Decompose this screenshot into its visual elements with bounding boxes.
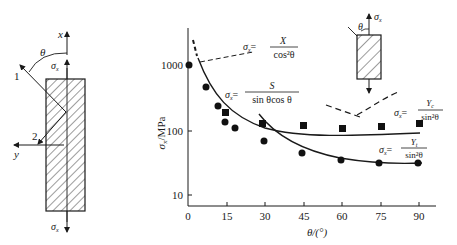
inset-stress-label: σx <box>374 11 382 23</box>
curve-yc-dashed-left <box>326 105 360 117</box>
data-point-circle <box>186 62 193 69</box>
x-tick-90: 90 <box>414 210 426 222</box>
data-point-circle <box>415 160 422 167</box>
x-tick-0: 0 <box>185 210 191 222</box>
svg-text:sin θcos θ: sin θcos θ <box>252 94 292 105</box>
curve-x-leader <box>200 52 253 62</box>
data-point-circle <box>222 119 229 126</box>
x-tick-45: 45 <box>299 210 311 222</box>
data-point-square <box>339 125 346 132</box>
formula-s-sincos: σx= S sin θcos θ <box>225 80 299 105</box>
stress-bottom-label: σx <box>51 221 59 233</box>
chart: 10 100 1000 0 15 30 45 60 75 90 θ/(°) σx… <box>155 28 443 239</box>
data-point-square <box>300 122 307 129</box>
x-axis-title: θ/(°) <box>307 226 328 239</box>
curve-x-cos2 <box>193 40 197 56</box>
svg-text:σx=: σx= <box>379 144 393 156</box>
y-tick-10: 10 <box>172 189 184 201</box>
svg-text:σx=: σx= <box>225 89 239 101</box>
x-tick-75: 75 <box>376 210 388 222</box>
data-point-square <box>378 123 385 130</box>
direction-2-label: 2 <box>32 130 38 142</box>
data-point-square <box>259 120 266 127</box>
inset-theta-label: θ <box>358 21 363 32</box>
curve-yt-sin2 <box>259 114 422 163</box>
svg-text:X: X <box>279 35 287 46</box>
direction-1-label: 1 <box>14 70 20 82</box>
data-point-square <box>222 109 229 116</box>
figure-canvas: x θ 1 σx 2 y σx 10 100 <box>0 0 457 245</box>
x-axis-label: x <box>57 28 63 40</box>
x-ticks: 0 15 30 45 60 75 90 <box>185 202 425 222</box>
y-tick-100: 100 <box>167 125 184 137</box>
curve-yc-dashed-right <box>357 92 398 115</box>
formula-yt-sin2: σx= Yt sin²θ <box>379 137 427 160</box>
svg-text:sin²θ: sin²θ <box>421 112 439 122</box>
svg-text:Yc: Yc <box>426 98 434 109</box>
formula-x-cos2: σx= X cos²θ <box>243 35 298 60</box>
data-point-circle <box>261 138 268 145</box>
svg-text:S: S <box>270 80 275 91</box>
inset-specimen-rect <box>357 35 381 79</box>
inset-specimen-diagram: θ σx <box>348 11 382 93</box>
x-tick-15: 15 <box>222 210 234 222</box>
y-axis-label: y <box>13 148 19 160</box>
data-point-circle <box>232 125 239 132</box>
series-squares <box>222 109 423 132</box>
svg-text:Yt: Yt <box>411 137 418 148</box>
data-point-circle <box>376 160 383 167</box>
specimen-diagram: x θ 1 σx 2 y σx <box>13 28 85 233</box>
theta-label: θ <box>40 46 46 58</box>
inset-angle-line <box>348 27 357 36</box>
x-tick-60: 60 <box>337 210 349 222</box>
formula-yc-sin2: σx= Yc sin²θ <box>394 98 443 122</box>
svg-text:cos²θ: cos²θ <box>273 49 294 60</box>
svg-text:σx=: σx= <box>243 41 257 53</box>
svg-text:σx=: σx= <box>394 107 408 119</box>
y-tick-1000: 1000 <box>161 59 184 71</box>
data-point-circle <box>299 150 306 157</box>
stress-top-label: σx <box>51 60 59 72</box>
data-point-circle <box>338 157 345 164</box>
x-tick-30: 30 <box>260 210 272 222</box>
data-point-circle <box>203 84 210 91</box>
svg-text:sin²θ: sin²θ <box>405 150 423 160</box>
theta-arc <box>29 53 67 72</box>
data-point-circle <box>215 103 222 110</box>
y-axis-title: σx/MPa <box>155 116 169 149</box>
